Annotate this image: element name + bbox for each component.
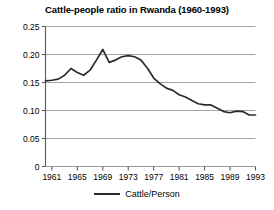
x-tick-label: 1965 [68,172,87,182]
y-tick-label: 0.15 [23,78,40,88]
legend-line-swatch [94,193,120,195]
x-tick-label: 1961 [42,172,61,182]
y-tick-label: 0.10 [23,106,40,116]
y-tick-label: 0.20 [23,50,40,60]
x-tick-label: 1977 [144,172,163,182]
x-tick-label: 1989 [221,172,240,182]
y-tick-label: 0 [35,162,40,172]
y-tick-label: 0.05 [23,134,40,144]
x-tick-label: 1973 [119,172,138,182]
chart-legend: Cattle/Person [0,189,274,199]
x-tick-label: 1985 [195,172,214,182]
x-tick-label: 1969 [93,172,112,182]
y-tick-label: 0.25 [23,22,40,32]
chart-figure: Cattle-people ratio in Rwanda (1960-1993… [0,0,274,210]
x-tick-label: 1981 [170,172,189,182]
legend-item-label: Cattle/Person [125,189,180,199]
chart-plot-area: 00.050.100.150.200.251961196519691973197… [0,0,274,210]
x-tick-label: 1993 [246,172,265,182]
